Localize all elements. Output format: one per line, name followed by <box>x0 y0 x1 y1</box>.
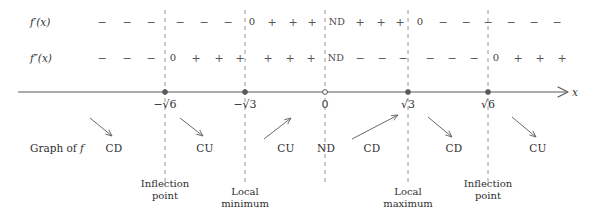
first-derivative-sign-cell-14: 0 <box>417 17 423 27</box>
arrow-cd-1 <box>90 118 112 136</box>
second-derivative-sign-cell-13: − <box>398 53 407 64</box>
second-derivative-sign-cell-11: − <box>355 53 364 64</box>
tick-marker-neg-sqrt3 <box>243 90 248 95</box>
first-derivative-sign-cell-18: − <box>506 17 515 28</box>
second-derivative-sign-cell-14: − <box>425 53 434 64</box>
caption-local-maximum: Localmaximum <box>383 186 433 210</box>
first-derivative-sign-cell-11: + <box>355 17 364 28</box>
second-derivative-sign-cell-1: − <box>122 53 131 64</box>
first-derivative-sign-cell-13: + <box>395 17 404 28</box>
arrow-cu-1 <box>180 118 203 136</box>
concavity-label-nd-1: ND <box>317 143 335 154</box>
tick-label-sqrt6: √6 <box>481 98 495 111</box>
first-derivative-sign-cell-17: − <box>483 17 492 28</box>
second-derivative-sign-cell-17: 0 <box>493 53 499 63</box>
second-derivative-sign-cell-2: − <box>146 53 155 64</box>
first-derivative-sign-cell-7: + <box>267 17 276 28</box>
arrow-cu-3 <box>512 117 536 137</box>
tick-marker-zero <box>323 90 328 95</box>
first-derivative-sign-cell-9: + <box>307 17 316 28</box>
second-derivative-sign-cell-19: + <box>535 53 544 64</box>
caption-line-1: Inflection <box>464 178 512 190</box>
first-derivative-sign-cell-20: − <box>552 17 561 28</box>
tick-label-sqrt3: √3 <box>401 98 415 111</box>
second-derivative-sign-cell-9: + <box>306 53 315 64</box>
tick-marker-neg-sqrt6 <box>163 90 168 95</box>
first-derivative-sign-cell-2: − <box>146 17 155 28</box>
concavity-label-cd-3: CD <box>445 143 462 154</box>
first-derivative-sign-cell-19: − <box>529 17 538 28</box>
first-derivative-sign-cell-10: ND <box>329 17 345 27</box>
first-derivative-sign-cell-3: − <box>175 17 184 28</box>
caption-line-1: Local <box>383 186 433 198</box>
caption-inflection-point-1: Inflectionpoint <box>141 178 189 202</box>
first-derivative-sign-cell-16: − <box>461 17 470 28</box>
caption-inflection-point-2: Inflectionpoint <box>464 178 512 202</box>
first-derivative-sign-cell-8: + <box>288 17 297 28</box>
second-derivative-sign-cell-6: + <box>235 53 244 64</box>
second-derivative-sign-cell-0: − <box>97 53 106 64</box>
caption-line-1: Inflection <box>141 178 189 190</box>
concavity-label-cu-2: CU <box>277 143 294 154</box>
first-derivative-sign-cell-6: 0 <box>249 17 255 27</box>
tick-label-zero: 0 <box>322 98 329 111</box>
second-derivative-sign-cell-16: − <box>469 53 478 64</box>
tick-marker-sqrt3 <box>406 90 411 95</box>
concavity-label-cu-3: CU <box>529 143 546 154</box>
first-derivative-sign-cell-12: + <box>376 17 385 28</box>
first-derivative-sign-cell-5: − <box>223 17 232 28</box>
second-derivative-sign-cell-7: + <box>263 53 272 64</box>
second-derivative-sign-cell-12: − <box>377 53 386 64</box>
sign-chart-diagram: f′(x) f″(x) Graph of f −−−−−−0+++ND+++0−… <box>0 0 602 218</box>
arrow-cu-2 <box>264 118 291 139</box>
tick-marker-sqrt6 <box>486 90 491 95</box>
second-derivative-sign-cell-4: + <box>191 53 200 64</box>
row-label-graph-of-f: Graph of f <box>30 143 84 154</box>
second-derivative-sign-cell-20: + <box>557 53 566 64</box>
caption-line-2: point <box>141 190 189 202</box>
concavity-label-cd-1: CD <box>105 143 122 154</box>
caption-line-1: Local <box>221 186 269 198</box>
arrow-cd-2 <box>352 115 398 139</box>
caption-line-2: maximum <box>383 198 433 210</box>
caption-local-minimum: Localminimum <box>221 186 269 210</box>
second-derivative-sign-cell-8: + <box>285 53 294 64</box>
arrow-cd-3 <box>428 117 452 137</box>
tick-label-neg-sqrt6: −√6 <box>153 98 176 111</box>
first-derivative-sign-cell-15: − <box>438 17 447 28</box>
first-derivative-sign-cell-0: − <box>97 17 106 28</box>
concavity-arrows <box>90 115 536 139</box>
first-derivative-sign-cell-4: − <box>199 17 208 28</box>
row-label-first-derivative: f′(x) <box>30 17 50 28</box>
second-derivative-sign-cell-10: ND <box>328 53 344 63</box>
concavity-label-cu-1: CU <box>196 143 213 154</box>
second-derivative-sign-cell-15: − <box>447 53 456 64</box>
caption-line-2: point <box>464 190 512 202</box>
row-label-second-derivative: f″(x) <box>30 53 52 64</box>
second-derivative-sign-cell-18: + <box>513 53 522 64</box>
caption-line-2: minimum <box>221 198 269 210</box>
second-derivative-sign-cell-3: 0 <box>170 53 176 63</box>
second-derivative-sign-cell-5: + <box>214 53 223 64</box>
first-derivative-sign-cell-1: − <box>122 17 131 28</box>
axis-label-x: x <box>572 86 578 98</box>
tick-label-neg-sqrt3: −√3 <box>233 98 256 111</box>
concavity-label-cd-2: CD <box>363 143 380 154</box>
